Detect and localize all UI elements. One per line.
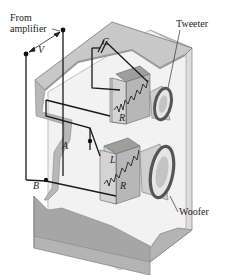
voltage-label: V	[38, 44, 44, 55]
node-b	[44, 178, 48, 182]
terminal-left	[24, 52, 29, 57]
tweeter-resistor-label: R	[119, 112, 125, 123]
node-b-label: B	[33, 180, 39, 191]
node-a-label: A	[62, 140, 68, 151]
source-label-line2: amplifier	[10, 23, 47, 34]
terminal-right	[61, 28, 66, 33]
voltage-arrow	[29, 32, 60, 52]
tweeter-label: Tweeter	[176, 18, 208, 29]
source-pointer	[52, 29, 60, 31]
woofer-label: Woofer	[179, 206, 209, 217]
woofer-resistor-label: R	[120, 180, 126, 191]
node-a	[88, 139, 92, 143]
inductor-label: L	[110, 154, 116, 165]
source-label-line1: From	[10, 12, 32, 23]
speaker-crossover-diagram	[0, 0, 225, 275]
capacitor-label: C	[102, 36, 109, 47]
